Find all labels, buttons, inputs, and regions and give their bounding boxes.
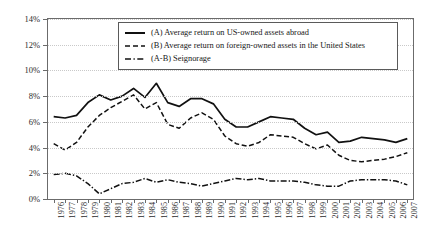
y-axis-label: 12% — [6, 40, 40, 50]
x-axis-label: 1991 — [228, 202, 237, 218]
series-line-3 — [54, 173, 408, 194]
legend-item: (A-B) Seignorage — [124, 52, 392, 65]
legend-item: (B) Average return on foreign-owned asse… — [124, 39, 392, 52]
y-axis-label: 10% — [6, 65, 40, 75]
x-axis-label: 1990 — [217, 202, 226, 218]
x-axis-label: 2003 — [365, 202, 374, 218]
gridline — [48, 70, 413, 71]
x-axis-label: 1984 — [148, 202, 157, 218]
y-axis-label: 2% — [6, 168, 40, 178]
x-axis-label: 1997 — [296, 202, 305, 218]
series-line-1 — [54, 83, 408, 142]
legend-label: (B) Average return on foreign-owned asse… — [151, 41, 365, 51]
x-axis-label: 2007 — [410, 202, 419, 218]
y-axis-label: 8% — [6, 91, 40, 101]
x-axis-label: 1993 — [251, 202, 260, 218]
gridline — [48, 19, 413, 20]
x-axis-label: 2005 — [388, 202, 397, 218]
x-axis-label: 1977 — [68, 202, 77, 218]
x-axis-label: 1999 — [319, 202, 328, 218]
x-axis-label: 1998 — [308, 202, 317, 218]
legend-swatch-solid — [124, 28, 146, 38]
x-axis-label: 2004 — [376, 202, 385, 218]
x-axis-label: 1983 — [137, 202, 146, 218]
x-axis-label: 2000 — [331, 202, 340, 218]
x-axis-label: 1980 — [103, 202, 112, 218]
legend-item: (A) Average return on US-owned assets ab… — [124, 26, 392, 39]
y-axis-label: 6% — [6, 117, 40, 127]
legend-swatch-dashdot — [124, 54, 146, 64]
legend-swatch-dashed — [124, 41, 146, 51]
x-axis-label: 1982 — [125, 202, 134, 218]
x-axis-label: 1979 — [91, 202, 100, 218]
x-axis-label: 2006 — [399, 202, 408, 218]
x-axis-label: 1986 — [171, 202, 180, 218]
y-axis-label: 14% — [6, 14, 40, 24]
x-axis-label: 1987 — [182, 202, 191, 218]
x-axis-label: 1995 — [274, 202, 283, 218]
x-axis-label: 1978 — [80, 202, 89, 218]
y-axis-label: 0% — [6, 194, 40, 204]
chart-legend: (A) Average return on US-owned assets ab… — [118, 22, 398, 70]
x-axis-label: 1996 — [285, 202, 294, 218]
x-axis-label: 1981 — [114, 202, 123, 218]
chart-container: 0%2%4%6%8%10%12%14% 19761977197819791980… — [0, 0, 426, 252]
legend-label: (A) Average return on US-owned assets ab… — [151, 28, 309, 38]
gridline — [48, 96, 413, 97]
x-axis-label: 1992 — [239, 202, 248, 218]
series-line-2 — [54, 95, 408, 162]
x-axis-label: 1989 — [205, 202, 214, 218]
gridline — [48, 122, 413, 123]
y-axis-label: 4% — [6, 143, 40, 153]
x-axis-label: 1988 — [194, 202, 203, 218]
gridline — [48, 173, 413, 174]
gridline — [48, 148, 413, 149]
x-axis-label: 1994 — [262, 202, 271, 218]
legend-label: (A-B) Seignorage — [151, 54, 211, 64]
x-axis-label: 2002 — [353, 202, 362, 218]
x-axis-label: 1976 — [57, 202, 66, 218]
x-axis-label: 2001 — [342, 202, 351, 218]
x-axis-label: 1985 — [160, 202, 169, 218]
